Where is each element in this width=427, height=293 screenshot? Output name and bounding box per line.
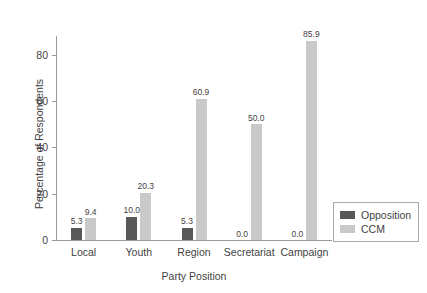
plot-area: 5.39.410.020.35.360.90.050.00.085.9: [56, 36, 332, 240]
bar-rect: [306, 41, 317, 240]
bar-ccm-local: 9.4: [85, 36, 96, 240]
bar-rect: [126, 217, 137, 240]
bar-value-label: 60.9: [193, 88, 210, 97]
legend: Opposition CCM: [333, 202, 419, 242]
x-tick-label-region: Region: [177, 246, 210, 258]
bar-rect: [140, 193, 151, 240]
legend-swatch-icon-ccm: [340, 225, 355, 233]
bar-ccm-youth: 20.3: [140, 36, 151, 240]
x-axis-line: [56, 240, 332, 241]
bar-opposition-region: 5.3: [182, 36, 193, 240]
bar-chart: 020406080 Percentage of Respondents Part…: [0, 0, 427, 293]
y-tick-mark: [52, 240, 56, 241]
bar-value-label: 9.4: [85, 208, 97, 217]
bar-rect: [71, 228, 82, 240]
bar-rect: [85, 218, 96, 240]
bar-rect: [196, 99, 207, 240]
x-tick-label-youth: Youth: [126, 246, 152, 258]
bar-rect: [182, 228, 193, 240]
bar-value-label: 85.9: [303, 30, 320, 39]
legend-label-ccm: CCM: [361, 224, 385, 235]
bar-opposition-local: 5.3: [71, 36, 82, 240]
bar-ccm-secretariat: 50.0: [251, 36, 262, 240]
bar-opposition-secretariat: 0.0: [237, 36, 248, 240]
bar-value-label: 5.3: [71, 217, 83, 226]
bar-value-label: 20.3: [138, 182, 155, 191]
bar-value-label: 10.0: [124, 206, 141, 215]
y-axis-title: Percentage of Respondents: [33, 49, 45, 239]
bar-ccm-region: 60.9: [196, 36, 207, 240]
x-axis-title: Party Position: [56, 270, 332, 282]
bar-opposition-campaign: 0.0: [292, 36, 303, 240]
x-tick-label-campaign: Campaign: [280, 246, 328, 258]
bar-value-label: 0.0: [236, 230, 248, 239]
bar-rect: [251, 124, 262, 240]
bar-value-label: 5.3: [181, 217, 193, 226]
x-tick-label-local: Local: [71, 246, 96, 258]
legend-item-ccm: CCM: [340, 222, 411, 236]
bar-opposition-youth: 10.0: [126, 36, 137, 240]
legend-item-opposition: Opposition: [340, 208, 411, 222]
legend-swatch-icon-opposition: [340, 211, 355, 219]
x-tick-label-secretariat: Secretariat: [224, 246, 275, 258]
legend-label-opposition: Opposition: [361, 210, 411, 221]
bar-value-label: 50.0: [248, 114, 265, 123]
bar-value-label: 0.0: [291, 230, 303, 239]
bar-ccm-campaign: 85.9: [306, 36, 317, 240]
